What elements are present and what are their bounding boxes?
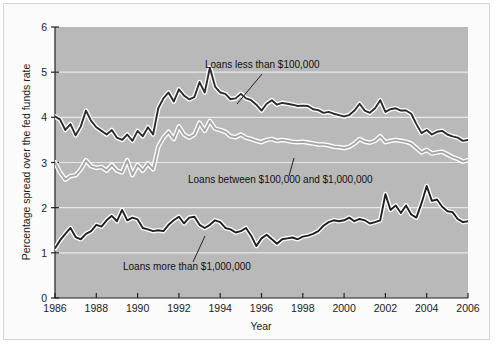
x-tick-label-2006: 2006 <box>456 302 480 314</box>
line-chart: 0123456 19861988199019921994199619982000… <box>0 0 499 351</box>
annotation-label-2: Loans more than $1,000,000 <box>123 261 251 272</box>
x-tick-label-1996: 1996 <box>250 302 274 314</box>
y-axis-tick-labels: 0123456 <box>41 21 47 304</box>
x-tick-label-2002: 2002 <box>374 302 398 314</box>
x-tick-label-1992: 1992 <box>167 302 191 314</box>
x-tick-label-1988: 1988 <box>85 302 109 314</box>
x-tick-label-2004: 2004 <box>415 302 439 314</box>
annotation-label-0: Loans less than $100,000 <box>205 59 320 70</box>
y-tick-label-2: 2 <box>41 202 47 214</box>
x-tick-label-2000: 2000 <box>332 302 356 314</box>
x-tick-label-1994: 1994 <box>209 302 233 314</box>
y-axis-title: Percentage spread over the fed funds rat… <box>20 63 32 260</box>
x-axis-title: Year <box>250 320 272 332</box>
y-tick-label-3: 3 <box>41 157 47 169</box>
y-tick-label-6: 6 <box>41 21 47 33</box>
figure-container: 0123456 19861988199019921994199619982000… <box>0 0 499 351</box>
x-tick-label-1986: 1986 <box>43 302 67 314</box>
y-tick-label-4: 4 <box>41 111 47 123</box>
x-tick-label-1998: 1998 <box>291 302 315 314</box>
x-tick-label-1990: 1990 <box>126 302 150 314</box>
y-tick-label-5: 5 <box>41 66 47 78</box>
y-tick-label-1: 1 <box>41 247 47 259</box>
annotation-label-1: Loans between $100,000 and $1,000,000 <box>188 174 373 185</box>
x-axis-tick-labels: 1986198819901992199419961998200020022004… <box>43 302 480 314</box>
